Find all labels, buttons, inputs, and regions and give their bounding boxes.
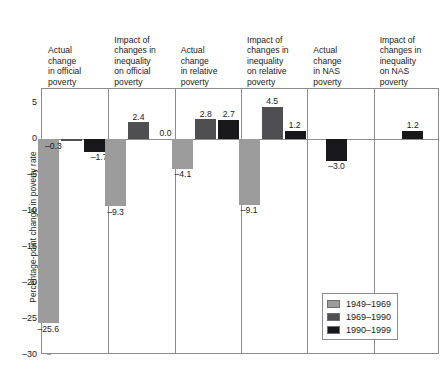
panel-header-line: inequality	[114, 56, 170, 66]
y-tick-label: –5	[27, 169, 37, 179]
panel-divider	[108, 89, 109, 353]
bar-value-label: 1.2	[289, 120, 326, 130]
legend-item: 1990–1999	[327, 323, 391, 336]
bar-value-label: –0.3	[36, 141, 62, 151]
panel-header-line: Impact of	[114, 35, 170, 45]
legend: 1949–1969 1969–1990 1990–1999	[322, 293, 398, 340]
panel-header-line: on official	[114, 66, 170, 76]
panel-header-line: Impact of	[380, 35, 436, 45]
bar-panel3-series2	[285, 131, 306, 140]
bar-panel1-series1	[128, 122, 149, 139]
bar-panel0-series1	[61, 139, 82, 141]
panel-header-line: poverty	[48, 77, 104, 87]
panel-header-1: Impact ofchanges ininequalityon official…	[114, 35, 170, 87]
panel-header-line: poverty	[181, 77, 237, 87]
y-tick-label: 5	[32, 97, 37, 107]
legend-item: 1949–1969	[327, 297, 391, 310]
legend-label: 1969–1990	[346, 312, 391, 322]
panel-header-line: inequality	[247, 56, 303, 66]
bar-panel3-series0	[239, 139, 260, 204]
bar-value-label: 0.0	[147, 128, 184, 138]
panel-header-line: Actual	[181, 45, 237, 55]
bar-value-label: –25.6	[30, 324, 67, 334]
panel-header-line: poverty	[380, 77, 436, 87]
panel-header-line: in relative	[181, 66, 237, 76]
panel-header-line: Actual	[48, 45, 104, 55]
bar-value-label: –9.3	[97, 207, 134, 217]
legend-label: 1990–1999	[346, 325, 391, 335]
panel-header-line: change	[48, 56, 104, 66]
legend-swatch-icon	[327, 326, 340, 334]
panel-header-2: Actualchangein relativepoverty	[181, 45, 237, 87]
panel-header-line: inequality	[380, 56, 436, 66]
bar-panel2-series2	[218, 120, 239, 139]
panel-header-3: Impact ofchanges ininequalityon relative…	[247, 35, 303, 87]
bar-value-label: 1.2	[394, 120, 431, 130]
bar-value-label: –4.1	[164, 169, 201, 179]
bar-value-label: –3.0	[318, 161, 355, 171]
y-tick-label: –25	[22, 313, 37, 323]
legend-label: 1949–1969	[346, 299, 391, 309]
panel-header-line: poverty	[114, 77, 170, 87]
y-tick-label: –15	[22, 241, 37, 251]
panel-header-line: changes in	[380, 45, 436, 55]
panel-header-line: changes in	[114, 45, 170, 55]
bar-panel1-series0	[105, 139, 126, 206]
y-axis-ticks: 50–5–10–15–20–25–30	[10, 0, 37, 373]
legend-item: 1969–1990	[327, 310, 391, 323]
bar-panel3-series1	[262, 107, 283, 139]
panel-divider	[241, 89, 242, 353]
y-tick-label: –30	[22, 349, 37, 359]
y-tick-label: –20	[22, 277, 37, 287]
panel-header-4: Actualchangein NASpoverty	[313, 45, 369, 87]
panel-header-5: Impact ofchanges ininequalityon NASpover…	[380, 35, 436, 87]
panel-headers: Actualchangein officialpovertyImpact ofc…	[41, 10, 439, 88]
bar-panel0-series0	[38, 139, 59, 323]
legend-swatch-icon	[327, 300, 340, 308]
panel-header-line: changes in	[247, 45, 303, 55]
bar-value-label: 2.7	[210, 109, 247, 119]
panel-header-0: Actualchangein officialpoverty	[48, 45, 104, 87]
legend-swatch-icon	[327, 313, 340, 321]
panel-header-line: in official	[48, 66, 104, 76]
panel-header-line: in NAS	[313, 66, 369, 76]
bar-value-label: –9.1	[231, 205, 268, 215]
bar-panel2-series0	[172, 139, 193, 168]
panel-header-line: on relative	[247, 66, 303, 76]
bar-panel4-series2	[326, 139, 347, 161]
bar-panel0-series2	[84, 139, 105, 151]
y-tick-label: –10	[22, 205, 37, 215]
panel-header-line: Impact of	[247, 35, 303, 45]
panel-header-line: poverty	[313, 77, 369, 87]
bar-value-label: 4.5	[254, 96, 291, 106]
bar-value-label: 2.4	[120, 112, 157, 122]
bar-panel5-series2	[402, 131, 423, 140]
panel-header-line: on NAS	[380, 66, 436, 76]
poverty-change-bar-chart: Percentage-point change in poverty rate …	[0, 0, 444, 373]
panel-header-line: poverty	[247, 77, 303, 87]
panel-header-line: Actual	[313, 45, 369, 55]
bar-panel2-series1	[195, 119, 216, 139]
panel-header-line: change	[313, 56, 369, 66]
panel-header-line: change	[181, 56, 237, 66]
